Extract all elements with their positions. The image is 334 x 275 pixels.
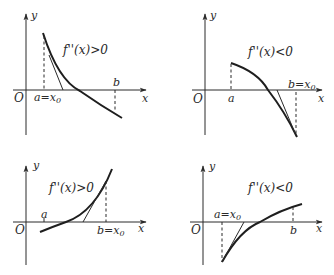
x-axis-label: x (316, 222, 323, 235)
condition-label: f''(x)<0 (247, 181, 293, 195)
origin-label: O (14, 91, 24, 105)
b-label: b (290, 224, 297, 237)
y-axis-label: y (208, 160, 216, 173)
function-curve (231, 63, 297, 137)
y-axis-label: y (30, 9, 38, 22)
b-label: b=x0 (97, 224, 125, 238)
x-axis-label: x (138, 222, 145, 235)
x-axis-label: x (318, 92, 325, 105)
condition-label: f''(x)>0 (62, 43, 108, 57)
b-label: b (113, 76, 120, 89)
panel-top-right: y x O a b=x0 f''(x)<0 (192, 9, 325, 137)
a-label: a=x0 (34, 91, 61, 105)
tangent-line (222, 222, 244, 262)
panel-bottom-left: y x O a b=x0 f''(x)>0 (13, 159, 146, 265)
y-axis-label: y (32, 159, 40, 172)
y-axis-label: y (209, 9, 217, 22)
condition-label: f''(x)<0 (247, 45, 293, 59)
newton-method-diagram: y x O a=x0 b f''(x)>0 y x O a b=x0 f''(x… (0, 0, 334, 275)
panel-top-left: y x O a=x0 b f''(x)>0 (13, 9, 149, 135)
a-label: a=x0 (214, 208, 241, 222)
b-label: b=x0 (288, 78, 316, 92)
x-axis-label: x (142, 92, 149, 105)
tangent-line (277, 90, 295, 133)
function-curve (40, 169, 112, 232)
a-label: a (228, 92, 235, 105)
panel-bottom-right: y x O a=x0 b f''(x)<0 (190, 160, 323, 265)
condition-label: f''(x)>0 (48, 181, 94, 195)
a-label: a (41, 208, 48, 221)
origin-label: O (191, 223, 201, 237)
origin-label: O (15, 223, 25, 237)
origin-label: O (193, 92, 203, 106)
